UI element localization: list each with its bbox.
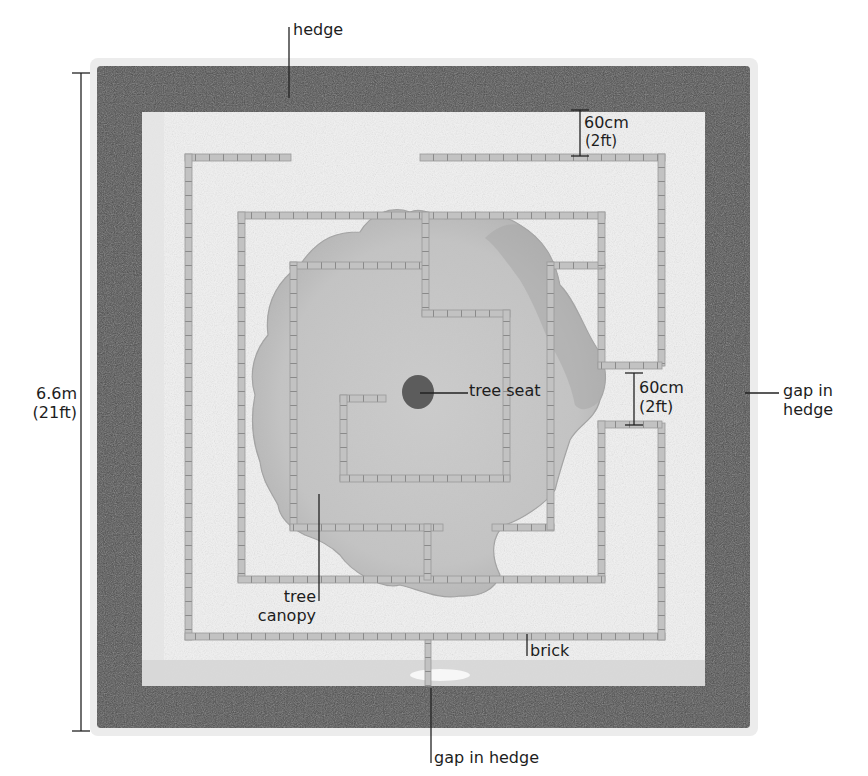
wall-r3-right (547, 262, 554, 530)
label-tree: tree (250, 587, 316, 606)
label-canopy: canopy (230, 606, 316, 625)
wall-r3-top (290, 262, 428, 269)
lawn-shade-left (142, 112, 164, 686)
wall-pocket-lower-left (598, 421, 605, 581)
wall-r1-top-left (185, 154, 291, 161)
wall-r1-right-lower (658, 423, 665, 640)
wall-r2-bottom (238, 576, 605, 583)
wall-r2-top (238, 212, 605, 219)
label-tree-seat: tree seat (469, 381, 541, 400)
label-dimension-6-6m: 6.6m (20, 384, 77, 403)
maze-garden-diagram: hedge 60cm (2ft) 6.6m (21ft) tree seat 6… (0, 0, 868, 776)
wall-r3-step (422, 310, 510, 317)
label-gap-right-line1: gap in (783, 381, 833, 400)
label-spacing-right-60cm: 60cm (639, 378, 684, 397)
label-brick: brick (530, 641, 569, 660)
wall-pocket-upper-bottom (598, 362, 662, 369)
wall-r3-bottom-left (290, 524, 443, 531)
label-spacing-top-2ft: (2ft) (585, 132, 617, 151)
label-spacing-top-60cm: 60cm (584, 113, 629, 132)
wall-r1-left (185, 154, 192, 640)
label-gap-bottom: gap in hedge (434, 748, 539, 767)
plan-drawing (0, 0, 868, 776)
wall-r3-bottom-spur (424, 524, 431, 580)
wall-pocket-upper-top (550, 262, 602, 269)
wall-r1-bottom (185, 633, 665, 640)
wall-r2-right (598, 212, 605, 268)
wall-inner-left (340, 395, 347, 481)
wall-r1-top-right (420, 154, 665, 161)
wall-r3-bottom-right (492, 524, 554, 531)
wall-r3-left (290, 262, 297, 530)
label-gap-right-line2: hedge (783, 400, 833, 419)
wall-r1-right-upper (658, 154, 665, 366)
label-spacing-right-2ft: (2ft) (639, 397, 673, 416)
wall-bottom-spur (425, 640, 431, 686)
gap-highlight (410, 669, 470, 681)
label-dimension-21ft: (21ft) (20, 403, 77, 422)
tree-seat (402, 375, 434, 409)
wall-r2-left (238, 212, 245, 582)
label-hedge: hedge (293, 20, 343, 39)
wall-r3-connector (422, 212, 429, 316)
wall-pocket-upper-left (598, 263, 605, 368)
wall-inner-bottom (340, 475, 510, 482)
